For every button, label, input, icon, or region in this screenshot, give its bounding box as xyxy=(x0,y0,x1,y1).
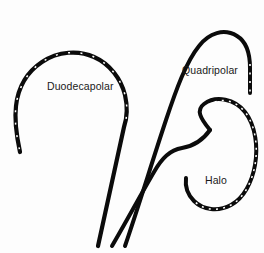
label-duodecapolar: Duodecapolar xyxy=(47,81,114,92)
label-halo: Halo xyxy=(205,175,227,186)
catheter-figure: Duodecapolar Quadripolar Halo xyxy=(0,0,264,253)
label-quadripolar: Quadripolar xyxy=(182,65,238,76)
figure-background xyxy=(0,0,264,253)
catheter-diagram xyxy=(0,0,264,253)
